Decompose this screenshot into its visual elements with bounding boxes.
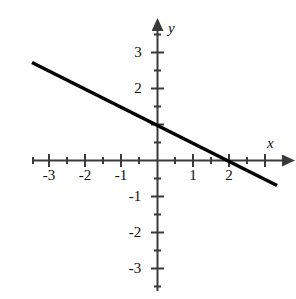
x-tick-label--2: -2 [77, 168, 93, 183]
y-tick-label-3: 3 [132, 45, 144, 60]
x-tick-label-2: 2 [223, 168, 235, 183]
coordinate-plane [0, 0, 296, 299]
y-tick-label--3: -3 [126, 261, 144, 276]
y-tick-label-2: 2 [132, 81, 144, 96]
graph-figure: -3 -2 -1 1 2 3 2 -1 -2 -3 y x [0, 0, 296, 299]
plotted-line [32, 63, 277, 186]
x-tick-label--3: -3 [41, 168, 57, 183]
y-tick-label--1: -1 [126, 189, 144, 204]
y-axis-label: y [168, 21, 175, 36]
y-tick-label--2: -2 [126, 225, 144, 240]
x-axis-label: x [267, 136, 274, 151]
x-tick-label--1: -1 [113, 168, 129, 183]
x-tick-label-1: 1 [187, 168, 199, 183]
